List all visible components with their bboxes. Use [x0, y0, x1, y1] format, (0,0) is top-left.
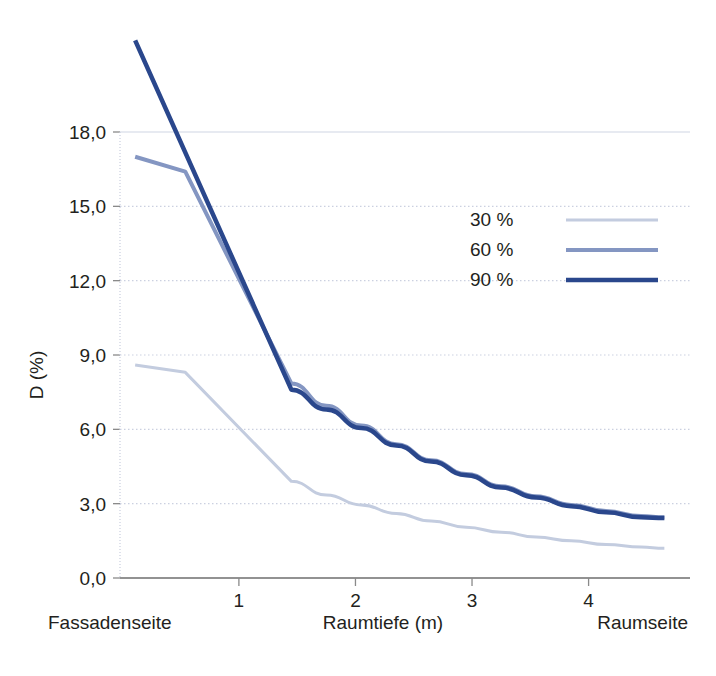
x-axis-right-caption: Raumseite [597, 612, 688, 633]
y-tick-label: 9,0 [80, 345, 106, 366]
x-axis-center-caption: Raumtiefe (m) [323, 612, 443, 633]
chart-svg: 0,03,06,09,012,015,018,0 1234 D (%) Fass… [0, 0, 716, 676]
y-tick-label: 6,0 [80, 419, 106, 440]
y-tick-label: 18,0 [69, 122, 106, 143]
y-tick-label: 3,0 [80, 494, 106, 515]
legend-label-90-percent: 90 % [470, 269, 513, 290]
x-axis-left-caption: Fassadenseite [48, 612, 172, 633]
y-tick-label: 0,0 [80, 568, 106, 589]
chart-background [0, 0, 716, 676]
legend-label-30-percent: 30 % [470, 209, 513, 230]
x-tick-label: 4 [583, 590, 594, 611]
y-tick-label: 15,0 [69, 196, 106, 217]
y-tick-label: 12,0 [69, 271, 106, 292]
x-tick-label: 2 [350, 590, 361, 611]
daylight-factor-chart: 0,03,06,09,012,015,018,0 1234 D (%) Fass… [0, 0, 716, 676]
y-axis-title: D (%) [26, 351, 47, 400]
x-tick-label: 3 [467, 590, 478, 611]
x-tick-label: 1 [234, 590, 245, 611]
legend-label-60-percent: 60 % [470, 239, 513, 260]
